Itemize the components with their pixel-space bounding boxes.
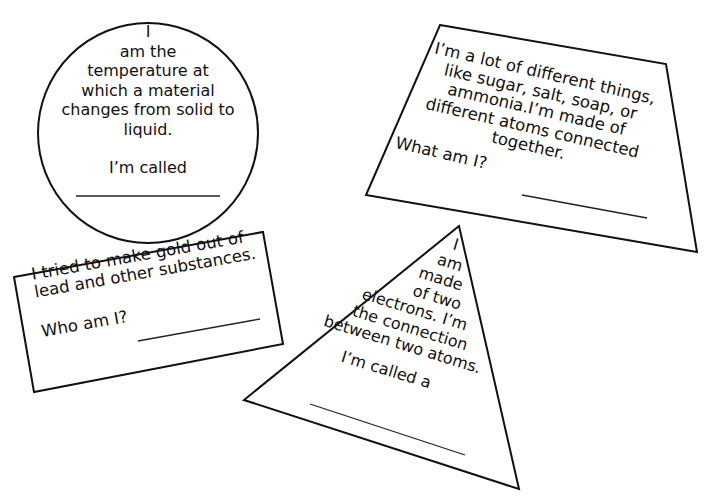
circle-line: which a material: [48, 81, 248, 101]
circle-line: I: [48, 22, 248, 42]
circle-line: liquid.: [48, 120, 248, 140]
circle-line: am the: [48, 42, 248, 62]
circle-line: temperature at: [48, 61, 248, 81]
circle-card-text: I am the temperature at which a material…: [48, 22, 248, 178]
circle-line: changes from solid to: [48, 100, 248, 120]
circle-prompt: I’m called: [48, 158, 248, 178]
